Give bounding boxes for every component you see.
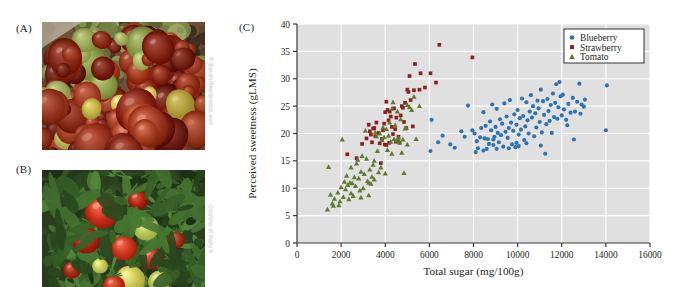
data-point xyxy=(409,98,413,102)
data-point xyxy=(539,88,543,92)
data-point xyxy=(516,108,520,112)
data-point xyxy=(524,100,528,104)
data-point xyxy=(571,96,575,100)
y-tick-label: 30 xyxy=(281,74,291,84)
data-point xyxy=(537,106,541,110)
data-point xyxy=(488,119,492,123)
data-point xyxy=(527,131,531,135)
data-point xyxy=(570,35,575,40)
data-point xyxy=(573,110,577,114)
data-point xyxy=(495,147,499,151)
data-point xyxy=(490,102,494,106)
data-point xyxy=(577,82,581,86)
data-point xyxy=(375,121,379,125)
data-point xyxy=(508,98,512,102)
x-tick-label: 6000 xyxy=(420,250,439,260)
x-tick-label: 16000 xyxy=(638,250,662,260)
panel-label-a: (A) xyxy=(16,22,32,34)
data-point xyxy=(535,99,539,103)
data-point xyxy=(561,93,565,97)
legend-label: Tomato xyxy=(580,52,609,62)
data-point xyxy=(517,133,521,137)
data-point xyxy=(385,100,389,104)
data-point xyxy=(555,117,559,121)
data-point xyxy=(545,97,549,101)
x-tick-label: 14000 xyxy=(594,250,618,260)
data-point xyxy=(393,127,397,131)
data-point xyxy=(493,125,497,129)
x-tick-label: 12000 xyxy=(550,250,574,260)
data-point xyxy=(582,105,586,109)
data-point xyxy=(570,45,574,49)
data-point xyxy=(434,81,438,85)
panel-label-b: (B) xyxy=(16,163,31,175)
data-point xyxy=(495,107,499,111)
data-point xyxy=(365,137,369,141)
data-point xyxy=(605,83,609,87)
data-point xyxy=(489,128,493,132)
legend-label: Blueberry xyxy=(580,33,618,43)
x-tick-label: 10000 xyxy=(506,250,530,260)
data-point xyxy=(540,130,544,134)
data-point xyxy=(539,143,543,147)
data-point xyxy=(428,149,432,153)
data-point xyxy=(550,131,554,135)
data-point xyxy=(499,133,503,137)
data-point xyxy=(385,143,389,147)
data-point xyxy=(572,137,576,141)
data-point xyxy=(538,120,542,124)
data-point xyxy=(568,111,572,115)
x-tick-label: 8000 xyxy=(464,250,483,260)
data-point xyxy=(505,114,509,118)
data-point xyxy=(407,90,411,94)
data-point xyxy=(474,150,478,154)
y-tick-label: 10 xyxy=(281,184,291,194)
data-point xyxy=(369,133,373,137)
data-point xyxy=(418,88,422,92)
data-point xyxy=(519,128,523,132)
data-point xyxy=(437,43,441,47)
data-point xyxy=(391,132,395,136)
data-point xyxy=(486,137,490,141)
data-point xyxy=(389,115,393,119)
data-point xyxy=(430,118,434,122)
photo-credit-a: © Bianchi/Shutterstock.com xyxy=(208,57,214,125)
data-point xyxy=(345,152,349,156)
chart-legend: BlueberryStrawberryTomato xyxy=(564,29,644,63)
data-point xyxy=(379,161,383,165)
data-point xyxy=(566,102,570,106)
data-point xyxy=(557,80,561,84)
data-point xyxy=(372,126,376,130)
data-point xyxy=(502,101,506,105)
data-point xyxy=(556,105,560,109)
data-point xyxy=(525,118,529,122)
data-point xyxy=(419,71,423,75)
data-point xyxy=(533,111,537,115)
data-point xyxy=(523,124,527,128)
data-point xyxy=(575,100,579,104)
data-point xyxy=(423,86,427,90)
y-tick-label: 15 xyxy=(281,156,291,166)
data-point xyxy=(471,56,475,60)
data-point xyxy=(507,146,511,150)
data-point xyxy=(528,110,532,114)
data-point xyxy=(475,139,479,143)
data-point xyxy=(412,88,416,92)
data-point xyxy=(604,128,608,132)
data-point xyxy=(408,74,412,78)
data-point xyxy=(548,119,552,123)
data-point xyxy=(542,113,546,117)
data-point xyxy=(394,116,398,120)
y-tick-label: 20 xyxy=(281,129,291,139)
x-tick-label: 4000 xyxy=(376,250,395,260)
data-point xyxy=(514,141,518,145)
data-point xyxy=(560,113,564,117)
data-point xyxy=(506,136,510,140)
data-point xyxy=(436,140,440,144)
data-point xyxy=(473,131,477,135)
x-tick-label: 2000 xyxy=(332,250,351,260)
photo-panel-a xyxy=(42,22,205,150)
data-point xyxy=(512,112,516,116)
data-point xyxy=(481,148,485,152)
data-point xyxy=(553,101,557,105)
